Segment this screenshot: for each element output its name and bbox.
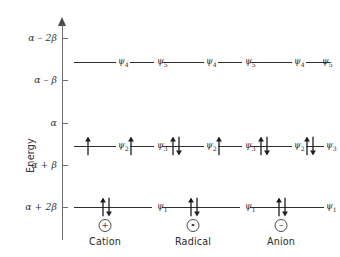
cation-electron-psi1-down (106, 198, 113, 217)
cation-level-psi5-lead (130, 62, 154, 63)
anion-level-psi4 (250, 62, 292, 63)
radical-level-psi2 (162, 146, 204, 147)
anion-electron-psi2-down (264, 137, 271, 156)
axis-tick-label-alpha: α (51, 117, 57, 128)
axis-tick-label-alpha-minus-2beta: α – 2β (28, 32, 57, 43)
radical-caption: Radical (148, 236, 238, 247)
cation-charge-icon (99, 219, 112, 232)
anion-label-psi4: ψ4 (294, 56, 305, 68)
cation-caption: Cation (60, 236, 150, 247)
axis-tick-label-alpha-minus-beta: α – β (34, 74, 57, 85)
anion-label-psi5: ψ5 (322, 56, 333, 68)
anion-level-psi2 (250, 146, 292, 147)
mo-energy-diagram: Energy α – 2β α – β α α + β α + 2β ψ4 ψ5… (0, 0, 340, 257)
axis-tick-2 (63, 123, 68, 124)
radical-electron-psi1-down (194, 198, 201, 217)
cation-level-psi1 (74, 207, 152, 208)
anion-charge-icon (275, 219, 288, 232)
anion-caption: Anion (236, 236, 326, 247)
radical-level-psi1 (162, 207, 240, 208)
radical-electron-psi2-down (176, 137, 183, 156)
anion-label-psi1: ψ1 (326, 201, 337, 213)
radical-level-psi5-lead (218, 62, 242, 63)
axis-tick-3 (63, 165, 68, 166)
radical-charge-icon (187, 219, 200, 232)
axis-tick-label-alpha-plus-beta: α + β (31, 159, 57, 170)
radical-label-psi4: ψ4 (206, 56, 217, 68)
cation-level-psi2 (74, 146, 116, 147)
anion-electron-psi1-down (282, 198, 289, 217)
cation-electron-psi3-up (128, 137, 135, 156)
anion-electron-psi3-down (310, 137, 317, 156)
cation-label-psi4: ψ4 (118, 56, 129, 68)
axis-tick-1 (63, 80, 68, 81)
anion-label-psi3: ψ3 (326, 140, 337, 152)
cation-level-psi4 (74, 62, 116, 63)
radical-level-psi4 (162, 62, 204, 63)
radical-electron-psi3-up (216, 137, 223, 156)
cation-electron-psi2-up (85, 137, 92, 156)
axis-tick-4 (63, 207, 68, 208)
axis-title-energy: Energy (25, 124, 36, 188)
axis-tick-label-alpha-plus-2beta: α + 2β (25, 201, 57, 212)
axis-tick-0 (63, 38, 68, 39)
